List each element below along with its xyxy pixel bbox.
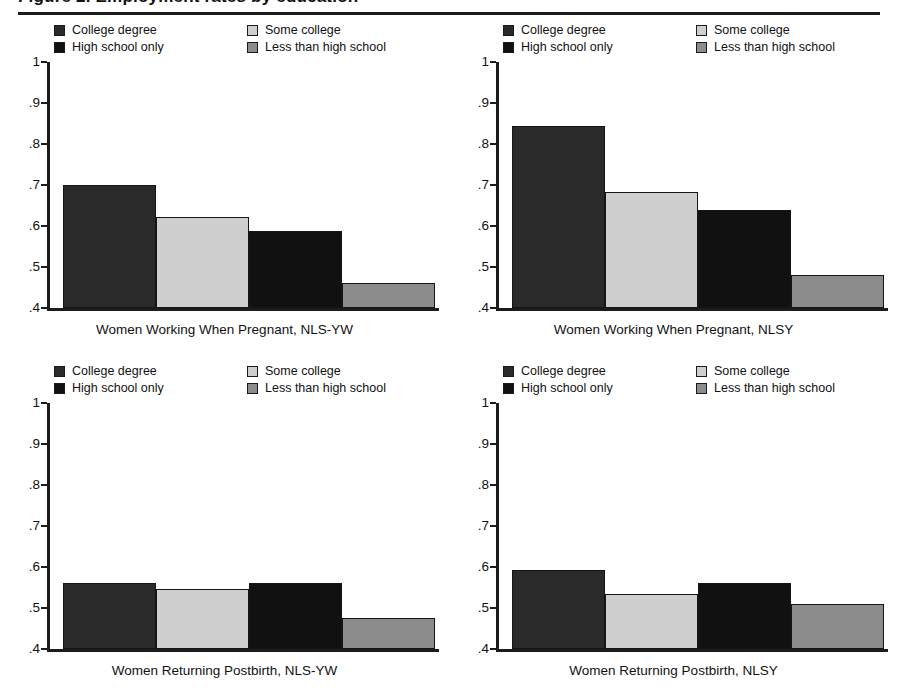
bar-some_college: [605, 594, 698, 649]
figure-title: Figure 2. Employment rates by education: [18, 0, 358, 7]
legend: College degreeHigh school onlySome colle…: [491, 22, 881, 56]
plot-area-1: 1.9.8.7.6.5.4Women Working When Pregnant…: [449, 56, 898, 357]
legend-column-1: Some collegeLess than high school: [696, 22, 886, 56]
y-tick-2: [490, 484, 496, 486]
legend-swatch-high_school_only: [503, 383, 514, 394]
y-tick-2: [41, 143, 47, 145]
legend-swatch-some_college: [696, 366, 707, 377]
chart-panel-grid: College degreeHigh school onlySome colle…: [0, 16, 898, 699]
y-tick-label-5: .5: [12, 260, 40, 274]
y-tick-label-0: 1: [12, 55, 40, 69]
y-axis-line: [496, 403, 499, 652]
y-tick-6: [490, 648, 496, 650]
y-tick-3: [490, 184, 496, 186]
legend-item-college_degree: College degree: [54, 22, 244, 39]
chart-panel-1: College degreeHigh school onlySome colle…: [449, 16, 898, 357]
y-tick-6: [490, 307, 496, 309]
y-tick-2: [41, 484, 47, 486]
bar-less_than_high_school: [791, 275, 884, 308]
legend-item-some_college: Some college: [247, 363, 437, 380]
legend-label-college_degree: College degree: [72, 24, 157, 37]
legend-item-some_college: Some college: [247, 22, 437, 39]
plot-area-0: 1.9.8.7.6.5.4Women Working When Pregnant…: [0, 56, 449, 357]
y-tick-label-4: .6: [461, 219, 489, 233]
legend-swatch-some_college: [247, 25, 258, 36]
axes-3: [496, 403, 886, 652]
legend-item-high_school_only: High school only: [54, 39, 244, 56]
bar-less_than_high_school: [342, 283, 435, 308]
legend-item-high_school_only: High school only: [503, 380, 693, 397]
y-tick-0: [41, 61, 47, 63]
chart-panel-3: College degreeHigh school onlySome colle…: [449, 357, 898, 698]
legend-column-0: College degreeHigh school only: [54, 22, 244, 56]
x-axis-line: [496, 308, 888, 311]
legend: College degreeHigh school onlySome colle…: [42, 363, 432, 397]
y-tick-label-6: .4: [12, 642, 40, 656]
bar-high_school_only: [698, 583, 791, 649]
legend-label-college_degree: College degree: [72, 365, 157, 378]
legend-item-college_degree: College degree: [503, 22, 693, 39]
y-tick-label-0: 1: [461, 396, 489, 410]
y-tick-label-3: .7: [461, 178, 489, 192]
legend-label-high_school_only: High school only: [72, 41, 164, 54]
y-tick-label-2: .8: [461, 478, 489, 492]
legend-item-college_degree: College degree: [54, 363, 244, 380]
chart-panel-2: College degreeHigh school onlySome colle…: [0, 357, 449, 698]
legend-label-less_than_high_school: Less than high school: [265, 382, 386, 395]
y-tick-label-4: .6: [12, 219, 40, 233]
legend-label-college_degree: College degree: [521, 24, 606, 37]
y-axis-line: [47, 62, 50, 311]
y-tick-6: [41, 648, 47, 650]
y-tick-3: [41, 184, 47, 186]
legend-label-high_school_only: High school only: [521, 41, 613, 54]
y-tick-5: [490, 266, 496, 268]
legend-swatch-high_school_only: [54, 42, 65, 53]
legend-swatch-less_than_high_school: [696, 42, 707, 53]
y-tick-3: [490, 525, 496, 527]
y-tick-label-2: .8: [12, 478, 40, 492]
bar-some_college: [156, 217, 249, 308]
y-tick-label-4: .6: [12, 560, 40, 574]
bars-group: [512, 403, 884, 649]
y-tick-6: [41, 307, 47, 309]
x-axis-title-2: Women Returning Postbirth, NLS-YW: [0, 663, 449, 678]
y-tick-1: [41, 443, 47, 445]
bar-college_degree: [63, 185, 156, 308]
legend-label-some_college: Some college: [265, 24, 341, 37]
legend-swatch-college_degree: [503, 25, 514, 36]
bar-less_than_high_school: [342, 618, 435, 649]
legend-label-some_college: Some college: [714, 24, 790, 37]
y-tick-5: [41, 607, 47, 609]
legend-swatch-college_degree: [54, 366, 65, 377]
legend-label-less_than_high_school: Less than high school: [265, 41, 386, 54]
chart-panel-0: College degreeHigh school onlySome colle…: [0, 16, 449, 357]
bar-high_school_only: [249, 583, 342, 649]
legend: College degreeHigh school onlySome colle…: [42, 22, 432, 56]
y-tick-label-6: .4: [461, 642, 489, 656]
legend-column-1: Some collegeLess than high school: [247, 363, 437, 397]
y-tick-label-5: .5: [461, 601, 489, 615]
legend-item-less_than_high_school: Less than high school: [696, 39, 886, 56]
bars-group: [63, 403, 435, 649]
y-tick-label-5: .5: [12, 601, 40, 615]
y-axis-line: [47, 403, 50, 652]
legend-item-some_college: Some college: [696, 22, 886, 39]
y-tick-3: [41, 525, 47, 527]
x-axis-title-0: Women Working When Pregnant, NLS-YW: [0, 322, 449, 337]
y-tick-4: [41, 225, 47, 227]
y-tick-1: [490, 102, 496, 104]
y-axis-line: [496, 62, 499, 311]
legend-swatch-college_degree: [503, 366, 514, 377]
y-tick-5: [490, 607, 496, 609]
x-axis-line: [47, 649, 439, 652]
bar-some_college: [605, 192, 698, 308]
y-tick-1: [490, 443, 496, 445]
y-tick-0: [490, 61, 496, 63]
bar-high_school_only: [249, 231, 342, 308]
legend-column-0: College degreeHigh school only: [503, 22, 693, 56]
y-tick-label-1: .9: [12, 96, 40, 110]
legend-item-college_degree: College degree: [503, 363, 693, 380]
legend-column-1: Some collegeLess than high school: [696, 363, 886, 397]
legend-swatch-some_college: [696, 25, 707, 36]
legend: College degreeHigh school onlySome colle…: [491, 363, 881, 397]
